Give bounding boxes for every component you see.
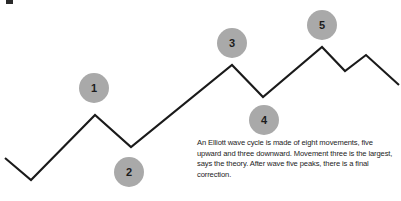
elliott-wave-figure: 1 2 3 4 5 An Elliott wave cycle is made … — [0, 0, 401, 201]
wave-marker-1-label: 1 — [91, 83, 97, 94]
caption-text: An Elliott wave cycle is made of eight m… — [197, 138, 397, 180]
wave-marker-4: 4 — [249, 105, 279, 135]
wave-marker-5: 5 — [307, 10, 337, 40]
wave-marker-5-label: 5 — [319, 20, 325, 31]
wave-marker-2-label: 2 — [126, 167, 132, 178]
wave-marker-2: 2 — [114, 157, 144, 187]
wave-marker-3: 3 — [217, 28, 247, 58]
wave-marker-3-label: 3 — [229, 38, 235, 49]
wave-marker-1: 1 — [79, 73, 109, 103]
wave-marker-4-label: 4 — [261, 115, 267, 126]
